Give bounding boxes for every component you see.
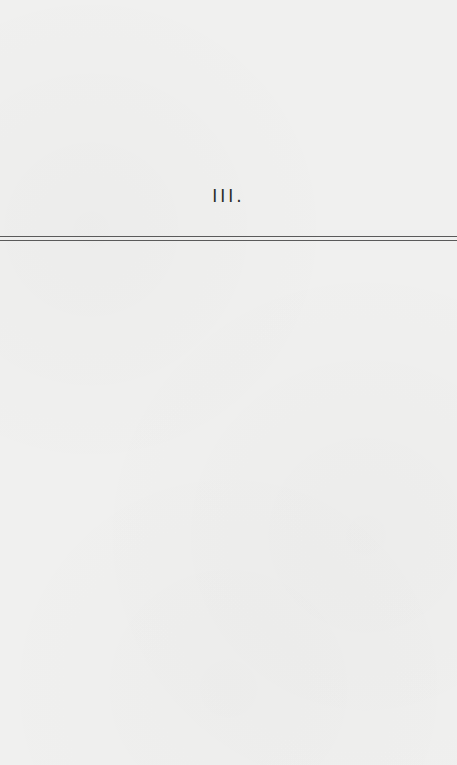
double-rule-divider <box>0 236 457 241</box>
paper-background <box>0 0 457 765</box>
section-heading: III. <box>0 186 457 206</box>
